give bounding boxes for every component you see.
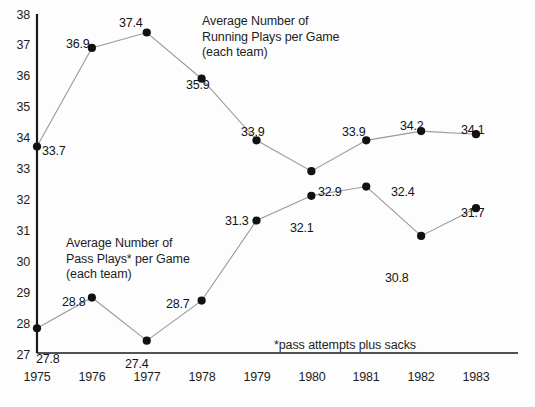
pass-plays-point bbox=[417, 232, 425, 240]
running-plays-value-label: 34.1 bbox=[461, 123, 485, 137]
x-axis-tick-label: 1982 bbox=[399, 370, 443, 384]
pass-plays-value-label: 32.1 bbox=[290, 221, 314, 235]
pass-plays-value-label: 28.7 bbox=[166, 297, 190, 311]
chart-footnote: *pass attempts plus sacks bbox=[274, 338, 416, 352]
y-axis-tick-label: 28 bbox=[8, 317, 30, 331]
pass-plays-point bbox=[307, 192, 315, 200]
x-axis-tick-label: 1979 bbox=[235, 370, 279, 384]
y-axis-tick-label: 33 bbox=[8, 162, 30, 176]
x-axis-tick-label: 1975 bbox=[15, 370, 59, 384]
running-annotation-line-3: (each team) bbox=[202, 45, 339, 61]
pass-annotation-line-3: (each team) bbox=[66, 267, 190, 283]
pass-plays-value-label: 28.8 bbox=[62, 295, 86, 309]
pass-plays-point bbox=[88, 293, 96, 301]
pass-plays-value-label: 31.7 bbox=[461, 206, 485, 220]
pass-plays-value-label: 31.3 bbox=[225, 214, 249, 228]
running-annotation-line-1: Average Number of bbox=[202, 14, 339, 30]
running-plays-point bbox=[307, 167, 315, 175]
y-axis-tick-label: 29 bbox=[8, 286, 30, 300]
y-axis-tick-label: 31 bbox=[8, 224, 30, 238]
pass-plays-point bbox=[143, 337, 151, 345]
y-axis-tick-label: 38 bbox=[8, 8, 30, 22]
running-plays-value-label: 36.9 bbox=[66, 37, 90, 51]
x-axis-tick-label: 1983 bbox=[454, 370, 498, 384]
pass-plays-point bbox=[362, 182, 370, 190]
pass-annotation-line-2: Pass Plays* per Game bbox=[66, 252, 190, 268]
running-plays-value-label: 35.9 bbox=[186, 78, 210, 92]
x-axis-tick-label: 1977 bbox=[125, 370, 169, 384]
x-axis-tick-label: 1978 bbox=[180, 370, 224, 384]
x-axis-tick-label: 1981 bbox=[344, 370, 388, 384]
y-axis-tick-label: 37 bbox=[8, 38, 30, 52]
running-plays-value-label: 32.9 bbox=[318, 185, 342, 199]
running-plays-value-label: 33.9 bbox=[342, 125, 366, 139]
y-axis-tick-label: 32 bbox=[8, 193, 30, 207]
running-plays-value-label: 33.9 bbox=[241, 125, 265, 139]
y-axis-tick-label: 34 bbox=[8, 131, 30, 145]
pass-plays-point bbox=[198, 297, 206, 305]
chart-plot-area bbox=[0, 0, 535, 407]
y-axis-tick-label: 35 bbox=[8, 100, 30, 114]
pass-plays-annotation: Average Number of Pass Plays* per Game (… bbox=[66, 236, 190, 283]
running-plays-point bbox=[143, 28, 151, 36]
pass-plays-value-label: 27.8 bbox=[36, 352, 60, 366]
running-plays-value-label: 37.4 bbox=[119, 16, 143, 30]
y-axis-tick-label: 30 bbox=[8, 255, 30, 269]
pass-plays-value-label: 27.4 bbox=[125, 357, 149, 371]
running-annotation-line-2: Running Plays per Game bbox=[202, 30, 339, 46]
y-axis-tick-label: 36 bbox=[8, 69, 30, 83]
x-axis-tick-label: 1976 bbox=[70, 370, 114, 384]
pass-annotation-line-1: Average Number of bbox=[66, 236, 190, 252]
pass-plays-point bbox=[252, 216, 260, 224]
pass-plays-value-label: 32.4 bbox=[391, 185, 415, 199]
running-plays-value-label: 34.2 bbox=[400, 119, 424, 133]
running-plays-annotation: Average Number of Running Plays per Game… bbox=[202, 14, 339, 61]
running-plays-value-label: 33.7 bbox=[42, 144, 66, 158]
pass-plays-value-label: 30.8 bbox=[385, 271, 409, 285]
running-plays-point bbox=[33, 142, 41, 150]
x-axis-tick-label: 1980 bbox=[290, 370, 334, 384]
chart-axes bbox=[37, 14, 518, 353]
y-axis-tick-label: 27 bbox=[8, 348, 30, 362]
chart-container: 383736353433323130292827 197519761977197… bbox=[0, 0, 535, 407]
pass-plays-point bbox=[33, 324, 41, 332]
